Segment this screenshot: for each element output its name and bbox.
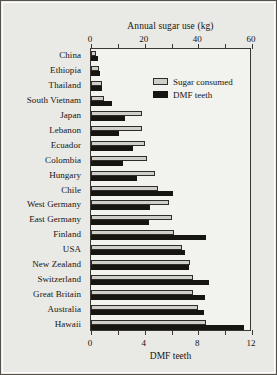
chart-figure: Annual sugar use (kg) 0204060 ChinaEthio… (0, 0, 277, 375)
bar-dmf-teeth (91, 56, 98, 61)
legend-swatch-sugar-consumed (153, 78, 168, 85)
bar-row (91, 141, 250, 151)
bottom-axis-tick-4 (145, 330, 146, 335)
category-label-thailand: Thailand (49, 80, 81, 90)
bar-dmf-teeth (91, 191, 173, 196)
category-label-west-germany: West Germany (27, 199, 81, 209)
bottom-axis-tick-label-12: 12 (247, 338, 256, 348)
category-label-finland: Finland (53, 229, 81, 239)
bar-dmf-teeth (91, 116, 125, 121)
bar-dmf-teeth (91, 310, 204, 315)
bar-row (91, 275, 250, 285)
category-label-colombia: Colombia (45, 155, 81, 165)
top-axis-tick-40 (198, 44, 199, 49)
category-label-hawaii: Hawaii (55, 319, 81, 329)
top-axis-tick-30 (172, 44, 173, 49)
bar-dmf-teeth (91, 71, 100, 76)
bar-dmf-teeth (91, 295, 205, 300)
legend-item-dmf-teeth: DMF teeth (153, 88, 233, 101)
bar-row (91, 290, 250, 300)
category-label-switzerland: Switzerland (37, 274, 81, 284)
category-label-hungary: Hungary (49, 170, 81, 180)
legend-swatch-dmf-teeth (153, 91, 168, 98)
bar-dmf-teeth (91, 205, 150, 210)
top-axis-tick-label-60: 60 (247, 34, 256, 44)
category-label-japan: Japan (60, 110, 81, 120)
category-label-great-britain: Great Britain (33, 289, 81, 299)
bar-row (91, 51, 250, 61)
bar-row (91, 200, 250, 210)
bottom-axis-tick-label-0: 0 (88, 338, 93, 348)
top-axis-tick-label-20: 20 (139, 34, 148, 44)
bar-row (91, 171, 250, 181)
category-label-lebanon: Lebanon (49, 125, 81, 135)
top-axis-tick-label-0: 0 (88, 34, 93, 44)
bar-row (91, 111, 250, 121)
bar-dmf-teeth (91, 250, 185, 255)
category-label-australia: Australia (48, 304, 81, 314)
top-axis-tick-10 (118, 44, 119, 49)
bottom-axis-tick-label-8: 8 (195, 338, 200, 348)
bar-row (91, 245, 250, 255)
category-label-south-vietnam: South Vietnam (27, 95, 81, 105)
bar-dmf-teeth (91, 146, 133, 151)
legend-item-sugar-consumed: Sugar consumed (153, 75, 233, 88)
bar-dmf-teeth (91, 280, 209, 285)
bar-row (91, 215, 250, 225)
bottom-axis-title: DMF teeth (90, 351, 251, 361)
category-label-chile: Chile (61, 185, 81, 195)
bar-dmf-teeth (91, 161, 123, 166)
bar-row (91, 230, 250, 240)
bottom-axis-tick-8 (198, 330, 199, 335)
bar-dmf-teeth (91, 325, 244, 330)
category-label-new-zealand: New Zealand (32, 259, 81, 269)
bottom-axis-tick-2 (118, 330, 119, 335)
bar-dmf-teeth (91, 265, 189, 270)
legend-label-sugar-consumed: Sugar consumed (173, 77, 233, 87)
category-label-china: China (59, 50, 81, 60)
category-label-ethiopia: Ethiopia (50, 65, 81, 75)
bar-row (91, 305, 250, 315)
bar-row (91, 320, 250, 330)
bar-dmf-teeth (91, 101, 112, 106)
category-label-east-germany: East Germany (29, 214, 81, 224)
bottom-axis-tick-12 (252, 330, 253, 335)
bottom-axis-tick-6 (172, 330, 173, 335)
bar-dmf-teeth (91, 131, 119, 136)
category-label-usa: USA (63, 244, 81, 254)
legend-label-dmf-teeth: DMF teeth (173, 90, 212, 100)
bar-row (91, 186, 250, 196)
bar-row (91, 126, 250, 136)
category-label-ecuador: Ecuador (51, 140, 81, 150)
bottom-axis-tick-0 (91, 330, 92, 335)
top-axis-tick-50 (225, 44, 226, 49)
top-axis-title: Annual sugar use (kg) (90, 21, 251, 31)
category-axis-labels: ChinaEthiopiaThailandSouth VietnamJapanL… (1, 48, 86, 331)
bar-dmf-teeth (91, 86, 102, 91)
bottom-axis-tick-label-4: 4 (141, 338, 146, 348)
bar-dmf-teeth (91, 176, 137, 181)
top-axis-tick-0 (91, 44, 92, 49)
top-axis-tick-label-40: 40 (193, 34, 202, 44)
bar-dmf-teeth (91, 235, 206, 240)
chart-legend: Sugar consumed DMF teeth (153, 75, 233, 101)
bar-row (91, 260, 250, 270)
top-axis-tick-60 (252, 44, 253, 49)
top-axis-tick-20 (145, 44, 146, 49)
bar-dmf-teeth (91, 220, 149, 225)
bottom-axis-tick-10 (225, 330, 226, 335)
bar-row (91, 156, 250, 166)
